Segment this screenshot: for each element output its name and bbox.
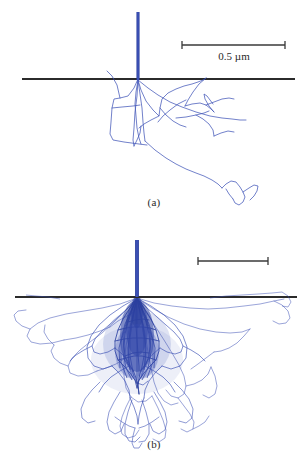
panel-a: 0.5 µm (a) xyxy=(0,0,308,232)
panel-a-caption: (a) xyxy=(0,196,308,208)
scalebar-a xyxy=(182,41,285,49)
scalebar-a-label: 0.5 µm xyxy=(182,50,286,62)
trajectories-a xyxy=(107,71,258,205)
panel-b-plot xyxy=(0,232,308,470)
figure-root: 0.5 µm (a) xyxy=(0,0,308,470)
interaction-volume-blob xyxy=(91,296,183,394)
panel-b: 0.5 µm (b) xyxy=(0,232,308,470)
panel-b-caption: (b) xyxy=(0,438,308,450)
scalebar-b xyxy=(198,257,268,265)
cropped-caption-sliver xyxy=(18,463,290,470)
backscattered-paths-b xyxy=(26,292,291,307)
